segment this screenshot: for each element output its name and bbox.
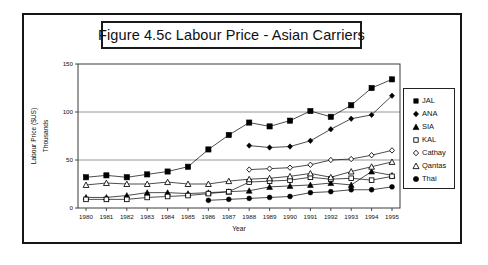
legend-item-kal[interactable]: KAL	[409, 133, 454, 146]
data-point-marker	[267, 195, 272, 200]
filled-square-icon	[409, 95, 422, 107]
data-point-marker	[125, 197, 130, 202]
legend-item-ana[interactable]: ANA	[409, 107, 454, 120]
y-axis-label-units: Thousands	[42, 119, 49, 152]
data-point-marker	[328, 114, 333, 119]
y-tick-label: 0	[70, 204, 74, 211]
chart-legend: JALANASIAKALCathayQantasThai	[403, 88, 455, 189]
data-point-marker	[226, 132, 231, 137]
x-tick-label: 1981	[100, 213, 114, 220]
x-tick-label: 1988	[242, 213, 256, 220]
data-point-marker	[288, 194, 293, 199]
data-point-marker	[349, 103, 354, 108]
chart-plot: 0501001501980198119821983198419851986198…	[22, 13, 462, 244]
legend-item-label: KAL	[422, 136, 436, 144]
data-point-marker	[349, 176, 354, 181]
x-tick-label: 1986	[202, 213, 216, 220]
filled-diamond-icon	[409, 108, 422, 120]
data-point-marker	[267, 124, 272, 129]
x-tick-label: 1992	[324, 213, 338, 220]
data-point-marker	[83, 175, 88, 180]
legend-item-label: JAL	[422, 97, 435, 105]
data-point-marker	[328, 189, 333, 194]
x-tick-label: 1983	[140, 213, 154, 220]
y-tick-label: 150	[63, 60, 74, 67]
legend-item-label: Qantas	[422, 162, 446, 170]
chart-figure: Figure 4.5c Labour Price - Asian Carrier…	[0, 0, 488, 265]
data-point-marker	[186, 193, 191, 198]
data-point-marker	[104, 197, 109, 202]
x-tick-label: 1994	[365, 213, 379, 220]
data-point-marker	[165, 194, 170, 199]
legend-item-cathay[interactable]: Cathay	[409, 146, 454, 159]
x-tick-label: 1989	[263, 213, 277, 220]
data-point-marker	[206, 198, 211, 203]
legend-item-thai[interactable]: Thai	[409, 172, 454, 185]
legend-item-qantas[interactable]: Qantas	[409, 159, 454, 172]
filled-circle-icon	[409, 173, 422, 185]
data-point-marker	[185, 164, 190, 169]
legend-item-label: SIA	[422, 123, 434, 131]
x-tick-label: 1990	[283, 213, 297, 220]
data-point-marker	[145, 195, 150, 200]
data-point-marker	[145, 172, 150, 177]
open-square-icon	[409, 134, 422, 146]
data-point-marker	[390, 174, 395, 179]
data-point-marker	[226, 197, 231, 202]
data-point-marker	[247, 196, 252, 201]
legend-item-label: ANA	[422, 110, 437, 118]
y-axis-label: Labour Price ($US)	[30, 108, 38, 164]
x-tick-label: 1982	[120, 213, 134, 220]
data-point-marker	[84, 197, 89, 202]
data-point-marker	[390, 184, 395, 189]
data-point-marker	[287, 118, 292, 123]
data-point-marker	[369, 187, 374, 192]
open-diamond-icon	[409, 147, 422, 159]
data-point-marker	[389, 77, 394, 82]
legend-item-jal[interactable]: JAL	[409, 94, 454, 107]
x-tick-label: 1991	[304, 213, 318, 220]
data-point-marker	[206, 147, 211, 152]
x-tick-label: 1987	[222, 213, 236, 220]
x-axis-label: Year	[232, 225, 246, 232]
y-tick-label: 100	[63, 108, 74, 115]
data-point-marker	[104, 173, 109, 178]
x-tick-label: 1995	[385, 213, 399, 220]
legend-item-sia[interactable]: SIA	[409, 120, 454, 133]
data-point-marker	[165, 169, 170, 174]
data-point-marker	[349, 187, 354, 192]
data-point-marker	[369, 85, 374, 90]
open-triangle-icon	[409, 160, 422, 172]
filled-triangle-icon	[409, 121, 422, 133]
data-point-marker	[227, 189, 232, 194]
data-point-marker	[369, 178, 374, 183]
data-point-marker	[124, 175, 129, 180]
y-tick-label: 50	[66, 156, 73, 163]
data-point-marker	[308, 190, 313, 195]
x-tick-label: 1980	[79, 213, 93, 220]
x-tick-label: 1985	[181, 213, 195, 220]
x-tick-label: 1993	[344, 213, 358, 220]
x-tick-label: 1984	[161, 213, 175, 220]
data-point-marker	[308, 108, 313, 113]
legend-item-label: Cathay	[422, 149, 446, 157]
legend-item-label: Thai	[422, 175, 437, 183]
data-point-marker	[206, 191, 211, 196]
data-point-marker	[247, 120, 252, 125]
